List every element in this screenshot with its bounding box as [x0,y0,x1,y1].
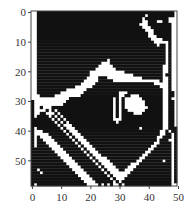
pixel-run [168,124,174,127]
pixel-run [37,44,157,47]
pixel-run [37,85,75,88]
pixel-run [60,112,113,115]
pixel-run [139,94,163,97]
pixel-run [127,174,171,177]
pixel-run [37,53,166,56]
pixel-run [63,127,66,130]
pixel-run [110,61,166,64]
y-tick-label: 0 [21,6,27,18]
pixel-run [168,112,174,115]
pixel-run [51,136,69,139]
pixel-run [168,127,177,130]
pixel-run [54,112,57,115]
pixel-run [142,127,163,130]
pixel-run [98,150,145,153]
pixel-run [124,70,162,73]
pixel-run [37,142,46,145]
pixel-run [116,100,119,103]
pixel-run [37,64,99,67]
pixel-run [37,73,90,76]
pixel-run [57,109,113,112]
pixel-run [81,144,84,147]
pixel-run [122,180,172,183]
pixel-run [136,165,171,168]
pixel-run [95,82,154,85]
x-tick-label: 20 [85,191,97,203]
pixel-run [92,156,95,159]
pixel-run [159,139,168,142]
pixel-run [113,162,131,165]
pixel-run [31,174,78,177]
pixel-run [145,100,163,103]
pixel-run [46,109,49,112]
pixel-run [37,55,166,58]
pixel-run [37,79,84,82]
pixel-run [159,142,171,145]
pixel-run [116,109,119,112]
pixel-run [119,168,125,171]
pixel-run [162,38,171,41]
pixel-run [63,115,113,118]
pixel-run [92,177,110,180]
pixel-run [69,97,113,100]
pixel-run [63,121,66,124]
pixel-run [151,150,172,153]
pixel-run [168,91,174,94]
pixel-run [86,171,104,174]
pixel-run [37,17,142,20]
pixel-run [95,159,98,162]
pixel-run [168,41,171,44]
x-tick-label: 10 [56,191,68,203]
pixel-run [31,168,37,171]
pixel-run [40,106,43,109]
pixel-run [69,133,72,136]
pixel-run [86,139,156,142]
pixel-run [40,112,46,115]
pixel-run [63,147,81,150]
pixel-run [92,85,159,88]
pixel-run [51,106,113,109]
pixel-run [37,23,140,26]
pixel-run [37,32,148,35]
pixel-run [101,165,104,168]
pixel-run [133,168,171,171]
pixel-run [43,130,64,133]
pixel-run [37,35,148,38]
pixel-run [162,20,168,23]
pixel-run [31,118,52,121]
pixel-run [107,171,110,174]
pixel-run [113,64,163,67]
pixel-run [37,76,87,79]
pixel-run [66,150,84,153]
pixel-run [148,14,175,17]
pixel-run [168,47,171,50]
pixel-run [148,106,163,109]
pixel-run [84,136,157,139]
pixel-run [31,153,58,156]
pixel-run [162,136,171,139]
pixel-run [37,14,145,17]
pixel-run [57,142,75,145]
pixel-run [168,97,171,100]
pixel-run [168,121,174,124]
pixel-run [81,165,99,168]
pixel-run [168,64,171,67]
pixel-run [168,55,171,58]
pixel-run [95,147,148,150]
x-axis: 01020304050 [30,186,185,203]
pixel-run [86,150,89,153]
pixel-run [154,32,172,35]
pixel-run [122,103,125,106]
pixel-run [37,41,154,44]
pixel-run [168,50,171,53]
y-tick-label: 30 [15,95,27,107]
pixel-run [116,103,119,106]
pixel-run [66,130,69,133]
pixel-run [168,115,174,118]
pixel-run [66,118,113,121]
pixel-run [37,20,142,23]
pixel-run [72,136,75,139]
pixel-run [57,115,60,118]
pixel-run [116,165,128,168]
pixel-run [168,118,174,121]
